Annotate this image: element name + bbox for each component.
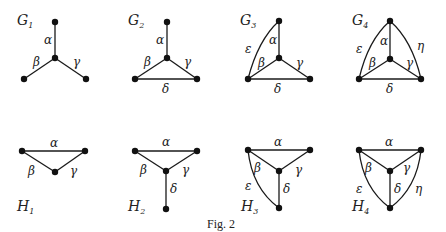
vertex: [418, 76, 424, 82]
vertex: [276, 168, 282, 174]
vertex: [356, 76, 362, 82]
label-gamma: γ: [296, 56, 304, 70]
label-alpha: α: [50, 136, 58, 150]
label-gamma: γ: [73, 55, 81, 69]
graph-name: G3: [240, 12, 256, 30]
label-gamma: γ: [403, 161, 411, 175]
label-delta: δ: [162, 82, 169, 96]
label-beta: β: [257, 56, 265, 70]
vertex: [276, 55, 282, 61]
graph-g4: α β γ δ ε η G4: [352, 12, 425, 96]
label-beta: β: [368, 56, 376, 70]
graph-name: H3: [240, 198, 258, 216]
graph-name: H4: [351, 198, 369, 216]
label-beta: β: [253, 161, 261, 175]
vertex: [387, 18, 393, 24]
vertex: [83, 76, 89, 82]
edge-beta: [359, 150, 390, 171]
graph-h4: α β γ δ ε η H4: [351, 135, 424, 216]
graph-name: G1: [17, 12, 33, 30]
vertex: [132, 76, 138, 82]
vertex: [307, 76, 313, 82]
graph-h2: α β γ δ H2: [127, 135, 200, 216]
label-alpha: α: [385, 135, 393, 149]
vertex: [387, 56, 393, 62]
label-gamma: γ: [70, 164, 78, 178]
vertex: [387, 205, 393, 211]
graph-name: H1: [16, 198, 34, 216]
label-delta: δ: [170, 182, 177, 196]
edge-gamma: [167, 58, 197, 79]
label-beta: β: [32, 55, 40, 69]
label-alpha: α: [269, 33, 277, 47]
edge-beta: [135, 58, 167, 79]
graph-name: H2: [127, 198, 145, 216]
figure-caption: Fig. 2: [207, 217, 235, 231]
vertex: [164, 19, 170, 25]
vertex: [276, 205, 282, 211]
label-gamma: γ: [182, 163, 190, 177]
vertex: [307, 147, 313, 153]
label-alpha: α: [44, 33, 52, 47]
graph-name: G4: [352, 12, 368, 30]
label-delta: δ: [283, 182, 290, 196]
vertex: [82, 148, 88, 154]
vertex: [52, 55, 58, 61]
vertex: [194, 148, 200, 154]
label-eta: η: [417, 39, 425, 53]
label-alpha: α: [380, 34, 388, 48]
label-beta: β: [139, 163, 147, 177]
label-beta: β: [27, 164, 35, 178]
vertex: [19, 148, 25, 154]
edge-beta: [248, 150, 279, 171]
edge-eta: [390, 150, 421, 208]
graph-g2: α β γ δ G2: [128, 12, 200, 96]
label-gamma: γ: [295, 163, 303, 177]
label-alpha: α: [162, 135, 170, 149]
label-delta: δ: [386, 82, 393, 96]
edge-beta: [22, 151, 55, 172]
label-gamma: γ: [184, 55, 192, 69]
label-epsilon: ε: [356, 182, 362, 196]
vertex: [387, 168, 393, 174]
label-gamma: γ: [406, 56, 414, 70]
label-epsilon: ε: [245, 42, 251, 56]
label-alpha: α: [156, 33, 164, 47]
graph-g1: α β γ G1: [17, 12, 89, 82]
figure-2: α β γ G1 α β γ δ G2 α β γ δ ε G3: [0, 0, 446, 232]
graph-h1: α β γ H1: [16, 136, 88, 216]
vertex: [245, 147, 251, 153]
label-delta: δ: [274, 82, 281, 96]
label-beta: β: [143, 55, 151, 69]
vertex: [418, 147, 424, 153]
graph-h3: α β γ δ ε H3: [240, 135, 313, 216]
vertex: [245, 76, 251, 82]
label-epsilon: ε: [245, 179, 251, 193]
edge-gamma: [279, 58, 310, 79]
vertex: [276, 18, 282, 24]
vertex: [356, 147, 362, 153]
edge-gamma: [55, 58, 86, 79]
vertex: [52, 169, 58, 175]
vertex: [21, 76, 27, 82]
vertex: [194, 76, 200, 82]
vertex: [52, 19, 58, 25]
vertex: [164, 55, 170, 61]
graph-g3: α β γ δ ε G3: [240, 12, 313, 96]
label-delta: δ: [394, 182, 401, 196]
vertex: [132, 148, 138, 154]
vertex: [163, 168, 169, 174]
graph-name: G2: [128, 12, 144, 30]
label-beta: β: [364, 161, 372, 175]
label-alpha: α: [274, 135, 282, 149]
label-eta: η: [415, 182, 423, 196]
label-epsilon: ε: [356, 42, 362, 56]
vertex: [163, 206, 169, 212]
